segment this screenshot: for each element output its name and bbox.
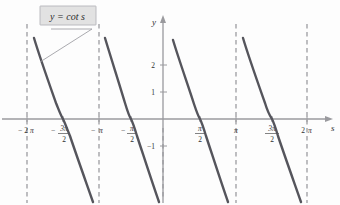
y-tick-1: 1 [151, 88, 155, 97]
sign-neg: − [121, 126, 125, 135]
cot-branch-1 [34, 38, 93, 202]
y-axis [160, 15, 166, 200]
x-tick-label-neg-2pi: − 2 π [18, 126, 34, 135]
graph-canvas: y s 2 1 −1 − 2 π [0, 0, 340, 205]
asymptote-group [27, 24, 307, 203]
denominator: 2 [62, 135, 66, 144]
cot-branch-3 [173, 40, 228, 202]
pi-symbol: π [308, 126, 312, 135]
x-axis [2, 116, 333, 122]
x-axis-arrow [325, 116, 333, 122]
x-tick-label-pi: π [234, 126, 238, 135]
coef: 2 [24, 126, 28, 135]
denominator: 2 [130, 135, 134, 144]
annotation-leader-line [40, 29, 92, 62]
sign-neg: − [91, 126, 95, 135]
sign-neg: − [18, 126, 22, 135]
cotangent-curve-group [34, 38, 301, 202]
pi-symbol: π [30, 126, 34, 135]
x-axis-label: s [331, 123, 335, 133]
y-axis-label: y [151, 17, 156, 27]
y-axis-arrow [160, 15, 166, 23]
y-tick-group: 2 1 −1 [147, 61, 167, 151]
y-tick-2: 2 [151, 61, 155, 70]
coef: 2 [301, 126, 305, 135]
cot-branch-4 [243, 38, 301, 202]
x-tick-label-neg-pi: − π [91, 126, 103, 135]
denominator: 2 [270, 135, 274, 144]
pi-symbol: π [99, 126, 103, 135]
cotangent-graph-figure: y s 2 1 −1 − 2 π [0, 0, 340, 205]
equation-label-box: y = cot s [40, 6, 96, 25]
sign-neg: − [51, 126, 55, 135]
pi-symbol: π [234, 126, 238, 135]
y-tick-neg1: −1 [147, 142, 155, 151]
denominator: 2 [198, 135, 202, 144]
equation-label-text: y = cot s [49, 11, 85, 22]
